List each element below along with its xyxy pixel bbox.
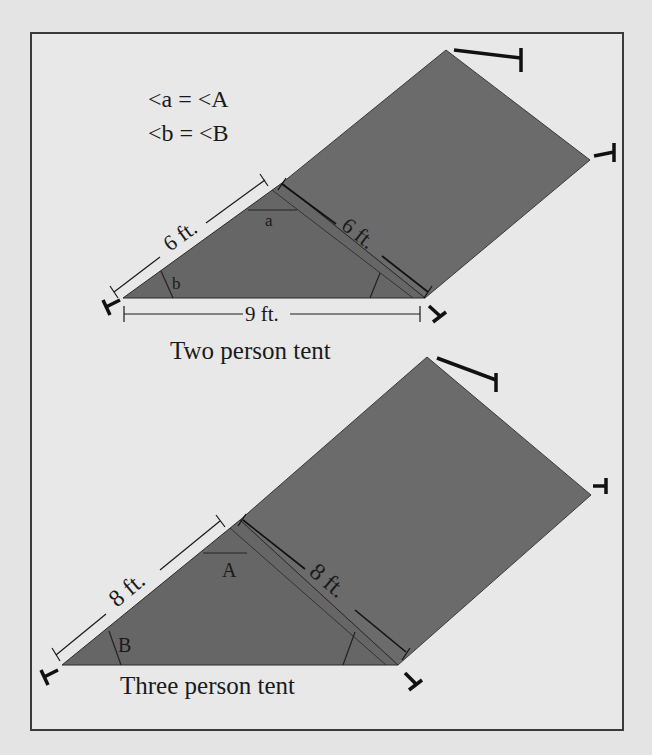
three-person-tent: A B 8 ft. 8 ft. bbox=[41, 357, 606, 699]
angle-B-label: B bbox=[118, 634, 131, 656]
stake-icon bbox=[103, 300, 120, 315]
stake-icon bbox=[405, 673, 422, 690]
stake-icon bbox=[429, 306, 446, 322]
stake-icon bbox=[41, 670, 58, 685]
page: <a = <A <b = <B a b 6 ft. bbox=[0, 0, 652, 755]
legend-line-2: <b = <B bbox=[148, 120, 229, 146]
dimension-base-9ft: 9 ft. bbox=[124, 302, 420, 326]
angle-a-label: a bbox=[265, 211, 273, 230]
stake-icon bbox=[594, 143, 614, 162]
tent-diagram: <a = <A <b = <B a b 6 ft. bbox=[0, 0, 652, 755]
base-label: 9 ft. bbox=[245, 302, 279, 326]
three-person-tent-caption: Three person tent bbox=[120, 672, 295, 699]
angle-b-label: b bbox=[172, 274, 181, 293]
two-person-tent-caption: Two person tent bbox=[170, 337, 331, 364]
angle-A-label: A bbox=[222, 559, 237, 581]
stake-icon bbox=[593, 478, 606, 494]
legend-line-1: <a = <A bbox=[148, 86, 229, 112]
